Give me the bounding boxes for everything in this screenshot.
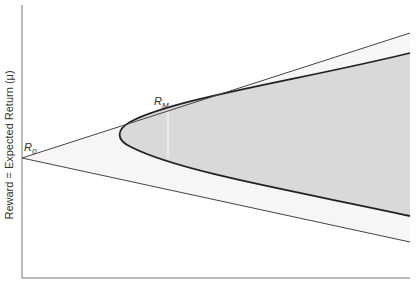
chart-canvas [0,0,416,284]
rm-label-sub: M [162,101,169,110]
r0-label-sub: 0 [32,147,36,156]
rm-label: RM [154,95,169,110]
rm-label-base: R [154,95,162,107]
y-axis-label: Reward = Expected Return (μ) [3,70,15,219]
r0-label-base: R [24,141,32,153]
r0-label: R0 [24,141,36,156]
